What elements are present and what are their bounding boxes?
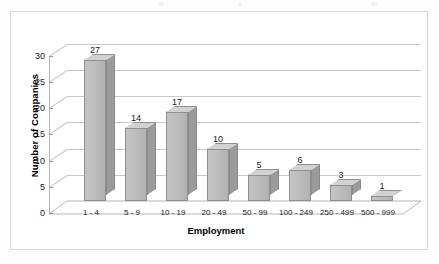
x-tick-label: 250 - 499 <box>314 208 360 217</box>
y-tick-mark-10 <box>49 161 53 162</box>
bar-column <box>371 196 393 201</box>
bar-column <box>84 60 106 201</box>
gridline-5 <box>67 175 421 176</box>
bar-column <box>289 170 311 201</box>
y-axis-title: Number of Companies <box>29 51 40 201</box>
y-tick-mark-25 <box>49 82 53 83</box>
x-tick-label: 1 - 4 <box>69 208 113 217</box>
bar-front-face <box>166 112 188 201</box>
bar-value-label: 17 <box>162 98 192 107</box>
bar-column <box>330 185 352 201</box>
y-tick-mark-20 <box>49 108 53 109</box>
depth-connector-30 <box>49 44 68 57</box>
bar-column <box>207 149 229 201</box>
y-tick-label: 0 <box>19 209 45 218</box>
scan-artifact <box>238 3 242 6</box>
bar-side-face <box>147 122 156 195</box>
x-tick-label: 10 - 19 <box>151 208 195 217</box>
chart-page: 30 25 20 15 10 5 0 Number of Companies 2… <box>0 0 439 264</box>
bar-value-label: 10 <box>203 135 233 144</box>
gridline-10 <box>67 149 421 150</box>
bar-column <box>248 175 270 201</box>
bar-column <box>166 112 188 201</box>
bar-value-label: 3 <box>326 171 356 180</box>
x-tick-label: 5 - 9 <box>110 208 154 217</box>
scan-artifact <box>371 2 377 6</box>
bar-front-face <box>371 196 393 201</box>
bar-front-face <box>125 128 147 201</box>
bar-value-label: 27 <box>80 46 110 55</box>
gridline-20 <box>67 96 421 97</box>
gridline-30 <box>67 44 421 45</box>
depth-connector-5 <box>49 175 68 188</box>
depth-connector-15 <box>49 122 68 135</box>
x-axis-title: Employment <box>51 225 381 236</box>
depth-connector-25 <box>49 70 68 83</box>
y-tick-mark-5 <box>49 187 53 188</box>
bar-side-face <box>106 54 115 195</box>
y-tick-mark-30 <box>49 56 53 57</box>
chart-frame: 30 25 20 15 10 5 0 Number of Companies 2… <box>10 11 428 250</box>
bar-front-face <box>207 149 229 201</box>
x-tick-label: 50 - 99 <box>233 208 277 217</box>
plot-area: 30 25 20 15 10 5 0 Number of Companies 2… <box>11 12 429 251</box>
bar-value-label: 5 <box>244 161 274 170</box>
x-tick-label: 20 - 49 <box>192 208 236 217</box>
bar-side-face <box>188 106 197 195</box>
x-tick-label: 500 - 999 <box>355 208 401 217</box>
bar-front-face <box>289 170 311 201</box>
bar-value-label: 14 <box>121 114 151 123</box>
bar-side-face <box>229 143 238 195</box>
scan-artifact <box>159 2 164 6</box>
gridline-25 <box>67 70 421 71</box>
y-tick-mark-0 <box>49 213 53 214</box>
depth-connector-20 <box>49 96 68 109</box>
y-tick-mark-15 <box>49 134 53 135</box>
depth-connector-10 <box>49 149 68 162</box>
bar-column <box>125 128 147 201</box>
bar-front-face <box>84 60 106 201</box>
bar-value-label: 6 <box>285 156 315 165</box>
bar-value-label: 1 <box>367 182 397 191</box>
bar-front-face <box>248 175 270 201</box>
bar-front-face <box>330 185 352 201</box>
x-tick-label: 100 - 249 <box>273 208 319 217</box>
